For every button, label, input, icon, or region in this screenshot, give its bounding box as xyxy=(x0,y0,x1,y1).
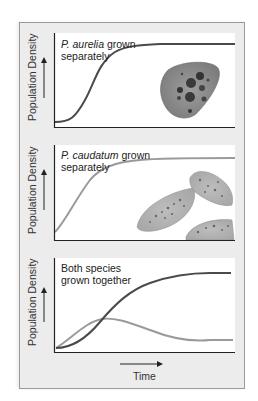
y-axis-label: Population Density xyxy=(26,33,38,121)
figure-svg: P. aurelia grown separately Population D… xyxy=(0,0,258,401)
panel-p-aurelia: P. aurelia grown separately Population D… xyxy=(26,33,235,128)
panel-title-line2: grown together xyxy=(61,274,132,286)
panel-title-line2: separately xyxy=(61,50,110,62)
y-axis-label: Population Density xyxy=(26,258,38,346)
title-rest: grown xyxy=(104,38,136,50)
panel-p-caudatum: P. caudatum grown separately Population … xyxy=(26,145,235,241)
panel-title: P. caudatum grown xyxy=(61,149,150,161)
species-name: P. aurelia xyxy=(61,38,104,50)
panel-title: Both species xyxy=(61,262,121,274)
y-axis-label: Population Density xyxy=(26,146,38,234)
panel-title-line2: separately xyxy=(61,161,110,173)
x-axis-label: Time xyxy=(133,370,156,382)
panel-title: P. aurelia grown xyxy=(61,38,136,50)
title-rest: grown xyxy=(119,149,151,161)
species-name: P. caudatum xyxy=(61,149,119,161)
panel-both-species: Both species grown together Population D… xyxy=(26,258,235,382)
